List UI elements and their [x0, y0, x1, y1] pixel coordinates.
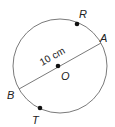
label-r: R [79, 8, 87, 20]
point-r-dot [75, 22, 80, 27]
circle-diagram: R A O B T 10 cm [0, 0, 115, 127]
label-t: T [32, 114, 40, 126]
point-t-dot [38, 106, 43, 111]
label-a: A [99, 32, 107, 44]
point-o-dot [56, 64, 61, 69]
label-o: O [61, 70, 70, 82]
label-b: B [7, 89, 14, 101]
